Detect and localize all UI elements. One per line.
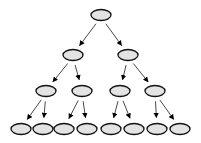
tree-node-n7 (11, 124, 31, 135)
edge-arrow-n2-n6 (133, 64, 148, 82)
edge-arrow-n5-n12 (123, 101, 130, 118)
edge-arrow-n3-n8 (44, 101, 45, 117)
edges-group (27, 24, 173, 120)
edge-arrow-n1-n3 (53, 64, 68, 82)
edge-arrow-n0-n2 (106, 24, 122, 46)
tree-node-n8 (33, 124, 53, 135)
tree-node-n4 (72, 86, 92, 97)
edge-arrow-n4-n10 (83, 101, 85, 117)
edge-arrow-n3-n7 (27, 100, 41, 120)
edge-arrow-n5-n11 (114, 101, 118, 118)
tree-node-n10 (77, 124, 97, 135)
tree-node-n9 (54, 124, 74, 135)
tree-node-n5 (110, 86, 130, 97)
tree-node-n12 (124, 124, 144, 135)
edge-arrow-n6-n14 (160, 100, 174, 120)
tree-diagram (0, 0, 201, 143)
tree-node-n6 (145, 86, 165, 97)
tree-node-n1 (63, 50, 83, 61)
edge-arrow-n2-n5 (123, 65, 127, 80)
edge-arrow-n1-n4 (75, 65, 79, 80)
tree-node-n3 (36, 86, 56, 97)
tree-node-n13 (147, 124, 167, 135)
edge-arrow-n0-n1 (80, 24, 96, 46)
nodes-group (11, 10, 190, 135)
tree-node-n14 (170, 124, 190, 135)
tree-node-n11 (101, 124, 121, 135)
tree-node-n2 (118, 50, 138, 61)
edge-arrow-n4-n9 (69, 101, 78, 119)
edge-arrow-n6-n13 (156, 101, 157, 117)
tree-node-n0 (91, 10, 111, 21)
